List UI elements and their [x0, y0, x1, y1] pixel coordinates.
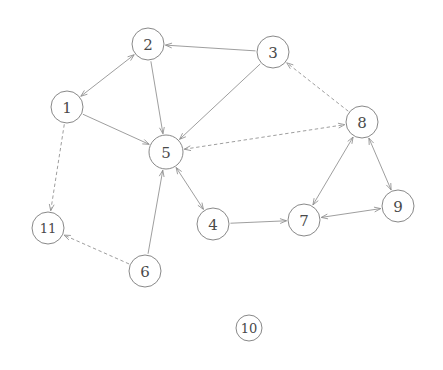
- edge-6-5: [148, 170, 164, 254]
- graph-node-8[interactable]: 8: [346, 106, 378, 138]
- graph-node-9[interactable]: 9: [382, 190, 414, 222]
- node-label-2: 2: [143, 36, 153, 54]
- edge-7-8: [313, 137, 353, 205]
- edge-4-7: [230, 219, 286, 224]
- edge-7-9: [321, 207, 380, 219]
- arrowhead-to-11: [64, 235, 70, 240]
- node-label-10: 10: [241, 321, 258, 336]
- arrowhead-to-7: [313, 199, 318, 205]
- graph-node-11[interactable]: 11: [32, 212, 64, 244]
- graph-svg: 1234567891011: [0, 0, 443, 370]
- graph-node-7[interactable]: 7: [288, 204, 320, 236]
- graph-node-4[interactable]: 4: [197, 208, 229, 240]
- edge-1-5: [83, 114, 149, 144]
- edge-1-11: [49, 124, 64, 210]
- arrowhead-to-8: [348, 137, 353, 143]
- node-label-5: 5: [161, 144, 171, 162]
- arrowhead-to-4: [198, 203, 203, 209]
- edge-2-5: [151, 61, 164, 133]
- graph-node-6[interactable]: 6: [129, 255, 161, 287]
- edge-3-5: [180, 64, 261, 139]
- edge-3-2: [165, 43, 255, 51]
- edge-8-9: [369, 138, 391, 190]
- arrowhead-to-5: [184, 146, 190, 151]
- graph-node-5[interactable]: 5: [149, 135, 183, 169]
- edge-5-8: [184, 123, 344, 150]
- node-label-4: 4: [208, 216, 218, 234]
- edge-5-4: [176, 167, 203, 209]
- node-label-8: 8: [357, 114, 367, 132]
- edge-8-3: [287, 63, 348, 111]
- graph-node-2[interactable]: 2: [132, 28, 164, 60]
- node-label-9: 9: [393, 198, 403, 216]
- graph-node-3[interactable]: 3: [257, 36, 289, 68]
- graph-diagram-canvas: 1234567891011: [0, 0, 443, 370]
- node-label-1: 1: [62, 99, 72, 117]
- node-label-7: 7: [299, 212, 309, 230]
- nodes-group: 1234567891011: [32, 28, 414, 341]
- graph-node-1[interactable]: 1: [51, 91, 83, 123]
- arrowhead-to-11: [49, 204, 54, 210]
- edge-1-2: [81, 55, 134, 97]
- node-label-11: 11: [40, 221, 57, 236]
- node-label-3: 3: [268, 44, 278, 62]
- edge-6-11: [64, 235, 129, 264]
- node-label-6: 6: [140, 263, 150, 281]
- graph-node-10[interactable]: 10: [236, 315, 262, 341]
- arrowhead-to-5: [176, 167, 181, 173]
